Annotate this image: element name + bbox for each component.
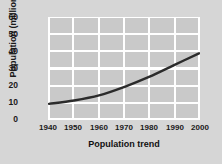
x-tick-label-1980: 1980: [136, 123, 162, 132]
y-tick-label-30: 30: [0, 64, 18, 72]
population-trend-chart: Population (millions) 60 50 40 30 20 10 …: [0, 0, 222, 164]
plot-area: [48, 17, 200, 120]
y-tick-label-20: 20: [0, 81, 18, 89]
x-axis-title: Population trend: [48, 139, 200, 149]
y-tick-label-50: 50: [0, 30, 18, 38]
x-tick-label-1960: 1960: [86, 123, 112, 132]
x-tick-label-1990: 1990: [162, 123, 188, 132]
x-tick-label-1970: 1970: [111, 123, 137, 132]
data-series-population: [48, 17, 200, 120]
y-tick-label-10: 10: [0, 98, 18, 106]
y-tick-label-60: 60: [0, 13, 18, 21]
y-tick-label-0: 0: [0, 115, 18, 123]
x-tick-label-2000: 2000: [187, 123, 213, 132]
x-tick-label-1950: 1950: [60, 123, 86, 132]
y-tick-label-40: 40: [0, 47, 18, 55]
x-tick-label-1940: 1940: [35, 123, 61, 132]
